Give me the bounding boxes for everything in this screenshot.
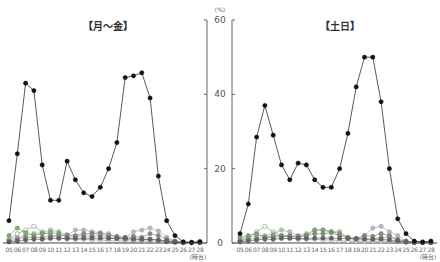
data-point — [98, 232, 102, 236]
data-point — [338, 167, 342, 171]
data-point — [379, 237, 383, 241]
right-x-unit-label: (時台) — [420, 253, 437, 261]
x-tick-label: 25 — [171, 246, 179, 253]
right-panel: 【土日】 05060708091011121314151617181920212… — [236, 20, 436, 261]
x-tick-label: 14 — [80, 246, 88, 253]
data-point — [131, 230, 135, 234]
data-point — [48, 236, 52, 240]
x-tick-label: 27 — [419, 246, 427, 253]
x-tick-label: 24 — [394, 246, 402, 253]
x-tick-label: 12 — [295, 246, 303, 253]
x-tick-label: 18 — [344, 246, 352, 253]
data-point — [396, 217, 400, 221]
data-point — [263, 224, 267, 228]
data-point — [98, 185, 102, 189]
data-point — [321, 236, 325, 240]
data-point — [379, 232, 383, 236]
data-point — [24, 231, 28, 235]
data-point — [156, 238, 160, 242]
x-tick-label: 17 — [105, 246, 113, 253]
x-tick-label: 15 — [319, 246, 327, 253]
data-point — [371, 237, 375, 241]
data-point — [82, 191, 86, 195]
x-tick-label: 22 — [147, 246, 155, 253]
data-point — [40, 163, 44, 167]
data-point — [148, 226, 152, 230]
left-x-tick-labels: 0506070809101112131415161718192021222324… — [5, 246, 203, 253]
left-panel: 【月～金】 0506070809101112131415161718192021… — [5, 20, 206, 261]
right-panel-title: 【土日】 — [320, 20, 360, 32]
data-point — [148, 96, 152, 100]
x-tick-label: 26 — [180, 246, 188, 253]
data-point — [288, 236, 292, 240]
data-point — [354, 236, 358, 240]
data-point — [404, 240, 408, 244]
data-point — [412, 239, 416, 243]
series-line — [240, 57, 431, 242]
x-tick-label: 09 — [270, 246, 278, 253]
data-point — [246, 239, 250, 243]
x-tick-label: 14 — [311, 246, 319, 253]
x-tick-label: 09 — [39, 246, 47, 253]
data-point — [379, 224, 383, 228]
x-tick-label: 15 — [88, 246, 96, 253]
data-point — [131, 74, 135, 78]
axis-lines — [3, 20, 437, 243]
x-tick-label: 21 — [138, 246, 146, 253]
data-point — [148, 232, 152, 236]
x-tick-label: 23 — [155, 246, 163, 253]
data-point — [107, 236, 111, 240]
data-point — [73, 178, 77, 182]
data-point — [148, 237, 152, 241]
x-tick-label: 23 — [386, 246, 394, 253]
data-point — [362, 237, 366, 241]
data-point — [313, 232, 317, 236]
data-point — [48, 198, 52, 202]
data-point — [304, 236, 308, 240]
x-tick-label: 28 — [427, 246, 435, 253]
data-point — [371, 226, 375, 230]
x-tick-label: 22 — [378, 246, 386, 253]
data-point — [238, 232, 242, 236]
x-tick-label: 07 — [22, 246, 30, 253]
data-point — [238, 240, 242, 244]
data-point — [40, 237, 44, 241]
data-point — [321, 232, 325, 236]
data-point — [255, 135, 259, 139]
data-point — [115, 236, 119, 240]
left-x-unit-label: (時台) — [190, 253, 207, 261]
x-tick-label: 12 — [64, 246, 72, 253]
y-unit-label: (%) — [215, 6, 225, 13]
data-point — [288, 178, 292, 182]
x-tick-label: 16 — [328, 246, 336, 253]
data-point — [156, 234, 160, 238]
x-tick-label: 05 — [5, 246, 13, 253]
x-tick-label: 10 — [278, 246, 286, 253]
x-tick-label: 05 — [236, 246, 244, 253]
data-point — [263, 237, 267, 241]
data-point — [107, 167, 111, 171]
data-point — [421, 240, 425, 244]
data-point — [396, 239, 400, 243]
data-point — [15, 226, 19, 230]
y-tick-label: 20 — [214, 164, 226, 174]
data-point — [32, 224, 36, 228]
data-point — [329, 231, 333, 235]
x-tick-label: 19 — [122, 246, 130, 253]
x-tick-label: 08 — [261, 246, 269, 253]
data-point — [140, 71, 144, 75]
data-point — [263, 103, 267, 107]
data-point — [279, 228, 283, 232]
x-tick-label: 06 — [14, 246, 22, 253]
right-series-group — [238, 55, 433, 245]
data-point — [321, 185, 325, 189]
data-point — [429, 239, 433, 243]
data-point — [7, 219, 11, 223]
data-point — [338, 236, 342, 240]
y-tick-label: 60 — [214, 15, 226, 25]
left-panel-title: 【月～金】 — [83, 20, 133, 32]
data-point — [24, 238, 28, 242]
data-point — [279, 236, 283, 240]
series-main — [7, 71, 202, 245]
chart-canvas: 【月～金】 0506070809101112131415161718192021… — [0, 0, 440, 262]
